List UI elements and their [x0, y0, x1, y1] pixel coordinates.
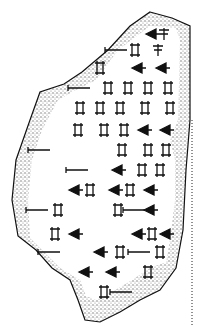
tablet-figure — [0, 0, 199, 331]
tablet-drawing — [0, 0, 199, 331]
